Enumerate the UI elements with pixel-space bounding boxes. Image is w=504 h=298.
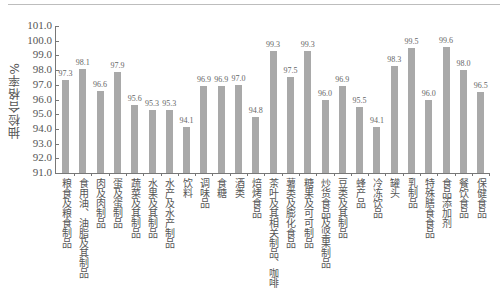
y-axis-title: 抽检合格率% <box>6 62 23 139</box>
category-label: 蔬菜及其制品 <box>129 178 140 238</box>
bar-value-label: 98.0 <box>448 59 478 68</box>
x-tick <box>316 173 317 176</box>
y-tick-label: 93.0 <box>33 138 52 149</box>
bar <box>235 85 242 173</box>
y-tick <box>55 173 59 174</box>
category-label: 炒货食品及坚果制品 <box>320 178 331 268</box>
bar <box>287 77 294 173</box>
category-label: 保健食品 <box>475 178 486 218</box>
category-label: 乳制品 <box>406 178 417 208</box>
bar <box>97 91 104 173</box>
y-tick-label: 101.0 <box>27 20 52 31</box>
y-tick-label: 95.0 <box>33 108 52 119</box>
x-tick <box>230 173 231 176</box>
bar-value-label: 96.0 <box>310 89 340 98</box>
bar-value-label: 95.5 <box>345 96 375 105</box>
y-tick <box>55 26 59 27</box>
bar-value-label: 97.5 <box>275 66 305 75</box>
category-label: 蛋及蛋制品 <box>112 178 123 228</box>
bar-value-label: 94.8 <box>241 106 271 115</box>
bar <box>252 117 259 173</box>
bar <box>425 100 432 174</box>
category-label: 调味品 <box>198 178 209 208</box>
bar <box>373 127 380 173</box>
category-label: 特殊膳食食品 <box>423 178 434 238</box>
category-label: 焙烤食品 <box>250 178 261 218</box>
category-label: 餐饮食品 <box>458 178 469 218</box>
bar-value-label: 96.5 <box>466 81 496 90</box>
bar <box>477 92 484 173</box>
bar <box>200 86 207 173</box>
y-tick <box>55 55 59 56</box>
y-tick <box>55 85 59 86</box>
y-tick-label: 98.0 <box>33 64 52 75</box>
bar <box>218 86 225 173</box>
bar-value-label: 99.5 <box>397 37 427 46</box>
category-label: 饮料 <box>181 178 192 198</box>
category-label: 粮食及粮食制品 <box>60 178 71 248</box>
category-label: 水果及其制品 <box>147 178 158 238</box>
bar <box>62 80 69 173</box>
x-tick <box>489 173 490 176</box>
y-tick <box>55 129 59 130</box>
y-tick-label: 100.0 <box>27 35 52 46</box>
bar <box>391 66 398 173</box>
x-tick <box>161 173 162 176</box>
y-tick-label: 96.0 <box>33 94 52 105</box>
category-label: 糖果及可可制品 <box>302 178 313 248</box>
category-label: 薯类及膨化食品 <box>285 178 296 248</box>
bar-value-label: 97.9 <box>102 61 132 70</box>
bar-value-label: 98.3 <box>379 55 409 64</box>
x-tick <box>420 173 421 176</box>
category-label: 食用油、油脂及其制品 <box>77 178 88 278</box>
category-label: 冷冻饮品 <box>371 178 382 218</box>
y-tick <box>55 100 59 101</box>
y-tick-label: 97.0 <box>33 79 52 90</box>
bar <box>183 127 190 173</box>
top-rule <box>8 4 500 5</box>
category-label: 茶叶及其相关制品、咖啡 <box>268 178 279 288</box>
x-axis <box>55 173 490 174</box>
x-tick <box>109 173 110 176</box>
bar <box>131 105 138 173</box>
x-tick <box>264 173 265 176</box>
x-tick <box>351 173 352 176</box>
bar <box>149 110 156 173</box>
bar-value-label: 94.1 <box>362 116 392 125</box>
x-tick <box>385 173 386 176</box>
bar-value-label: 95.3 <box>154 99 184 108</box>
x-tick <box>472 173 473 176</box>
category-label: 豆类及其制品 <box>337 178 348 238</box>
category-label: 罐头 <box>389 178 400 198</box>
bar-value-label: 98.1 <box>68 58 98 67</box>
x-tick <box>437 173 438 176</box>
bar <box>304 51 311 173</box>
x-tick <box>368 173 369 176</box>
x-tick <box>143 173 144 176</box>
x-tick <box>178 173 179 176</box>
x-tick <box>212 173 213 176</box>
bar-value-label: 99.3 <box>258 40 288 49</box>
y-tick <box>55 114 59 115</box>
bar <box>322 100 329 174</box>
bar-value-label: 94.1 <box>172 116 202 125</box>
x-tick <box>403 173 404 176</box>
x-tick <box>299 173 300 176</box>
y-tick <box>55 158 59 159</box>
bar-value-label: 99.6 <box>431 36 461 45</box>
x-tick <box>247 173 248 176</box>
x-tick <box>195 173 196 176</box>
category-label: 食糖 <box>216 178 227 198</box>
y-tick-label: 92.0 <box>33 152 52 163</box>
x-tick <box>126 173 127 176</box>
x-tick <box>74 173 75 176</box>
y-tick <box>55 41 59 42</box>
y-tick-label: 99.0 <box>33 49 52 60</box>
x-tick <box>91 173 92 176</box>
bar <box>114 72 121 173</box>
y-tick-label: 94.0 <box>33 123 52 134</box>
bar-value-label: 96.6 <box>85 80 115 89</box>
y-tick-label: 91.0 <box>33 167 52 178</box>
category-label: 酒类 <box>233 178 244 198</box>
bar-value-label: 96.9 <box>327 75 357 84</box>
